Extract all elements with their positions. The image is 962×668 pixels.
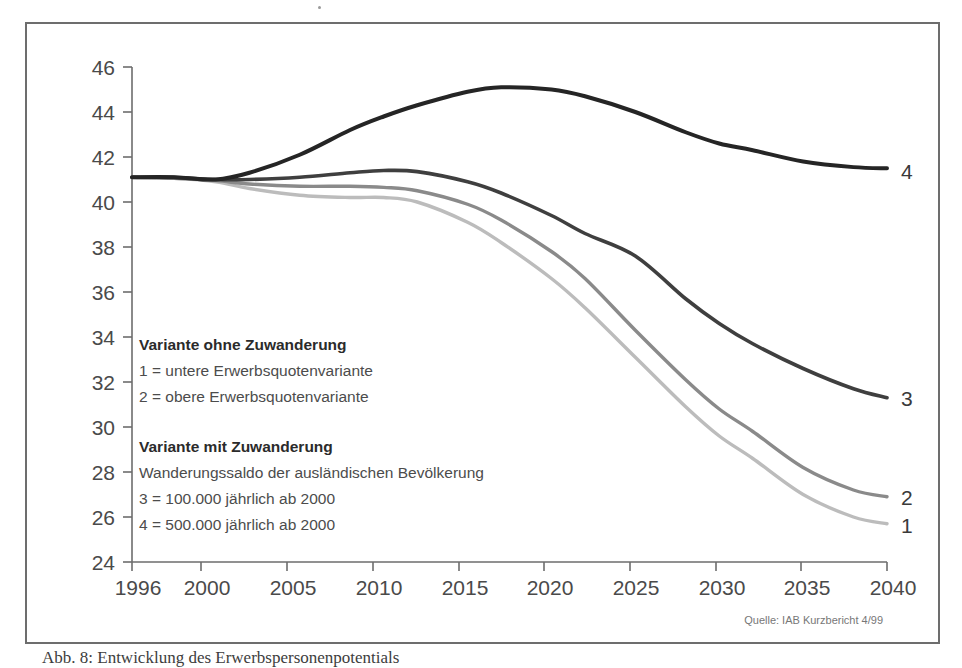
curve-end-label-4: 4	[901, 160, 913, 183]
legend-item-variant-1: 1 = untere Erwerbsquotenvariante	[139, 362, 373, 379]
source-note: Quelle: IAB Kurzbericht 4/99	[744, 614, 883, 626]
y-tick-label: 40	[92, 191, 115, 214]
y-tick-label: 38	[92, 236, 115, 259]
y-tick-label: 28	[92, 461, 115, 484]
legend-heading-with-migration: Variante mit Zuwanderung	[139, 438, 333, 455]
y-tick-label: 46	[92, 56, 115, 79]
curve-end-labels-group: 4 3 2 1	[901, 160, 913, 537]
legend-item-variant-2: 2 = obere Erwerbsquotenvariante	[139, 388, 369, 405]
x-tick-label: 2000	[184, 576, 231, 599]
legend-group: Variante ohne Zuwanderung 1 = untere Erw…	[139, 336, 484, 533]
y-tick-label: 34	[92, 326, 116, 349]
x-tick-label: 2040	[870, 576, 917, 599]
y-tick-label: 32	[92, 371, 115, 394]
chart-svg: 46 44 42 40 38 36 34 32 30 28 26 24	[27, 24, 938, 642]
figure-caption: Abb. 8: Entwicklung des Erwerbspersonenp…	[42, 648, 399, 668]
y-tick-label: 24	[92, 551, 116, 574]
y-tick-label: 36	[92, 281, 115, 304]
y-tick-labels-group: 46 44 42 40 38 36 34 32 30 28 26 24	[92, 56, 116, 574]
legend-heading-no-migration: Variante ohne Zuwanderung	[139, 336, 347, 353]
x-tick-label: 2020	[527, 576, 574, 599]
curve-end-label-3: 3	[901, 387, 913, 410]
y-tick-label: 26	[92, 506, 115, 529]
curve-end-label-1: 1	[901, 514, 913, 537]
scan-speck	[318, 6, 321, 9]
x-ticks-group	[132, 562, 887, 571]
x-tick-label: 2010	[356, 576, 403, 599]
chart-frame: 46 44 42 40 38 36 34 32 30 28 26 24	[25, 22, 940, 644]
x-tick-label: 2030	[699, 576, 746, 599]
x-tick-label: 2005	[270, 576, 317, 599]
y-tick-label: 44	[92, 101, 116, 124]
x-tick-label: 2015	[442, 576, 489, 599]
legend-subtitle-migration: Wanderungssaldo der ausländischen Bevölk…	[139, 464, 484, 481]
x-tick-labels-group: 1996 2000 2005 2010 2015 2020 2025 2030 …	[115, 576, 917, 599]
legend-item-variant-4: 4 = 500.000 jährlich ab 2000	[139, 516, 335, 533]
axes-group	[132, 67, 887, 562]
legend-item-variant-3: 3 = 100.000 jährlich ab 2000	[139, 490, 335, 507]
y-ticks-group	[123, 67, 132, 562]
series-line-4	[132, 87, 887, 179]
x-tick-label: 2025	[613, 576, 660, 599]
y-tick-label: 42	[92, 146, 115, 169]
curve-end-label-2: 2	[901, 486, 913, 509]
data-curves-group	[132, 87, 887, 524]
x-tick-label: 1996	[115, 576, 162, 599]
y-tick-label: 30	[92, 416, 115, 439]
x-tick-label: 2035	[784, 576, 831, 599]
